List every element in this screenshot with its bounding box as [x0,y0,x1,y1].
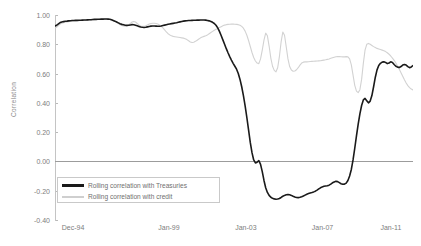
legend-swatch-credit [62,196,84,198]
y-tick-label: 1.00 [16,12,50,19]
y-tick-label: 0.80 [16,41,50,48]
legend-item-credit: Rolling correlation with credit [62,191,215,202]
x-tick-label: Jan-07 [312,224,333,231]
y-axis-tick-labels: 1.000.800.600.400.200.00-0.20-0.40 [14,0,50,246]
chart-legend: Rolling correlation with Treasuries Roll… [57,177,220,203]
y-tick-label: -0.20 [16,187,50,194]
legend-label-treasuries: Rolling correlation with Treasuries [88,182,187,189]
y-tick-label: -0.40 [16,217,50,224]
series-line-credit [55,19,413,93]
x-tick-label: Jan-03 [235,224,256,231]
x-tick-label: Jan-11 [380,224,401,231]
y-tick-label: 0.20 [16,129,50,136]
legend-swatch-treasuries [62,184,84,187]
y-tick-label: 0.60 [16,70,50,77]
x-tick-label: Dec-94 [62,224,85,231]
y-tick-label: 0.00 [16,158,50,165]
legend-label-credit: Rolling correlation with credit [88,193,172,200]
x-tick-label: Jan-99 [158,224,179,231]
y-tick-label: 0.40 [16,99,50,106]
legend-item-treasuries: Rolling correlation with Treasuries [62,180,215,191]
series-line-treasuries [55,19,413,199]
correlation-line-chart: Correlation 1.000.800.600.400.200.00-0.2… [0,0,421,246]
